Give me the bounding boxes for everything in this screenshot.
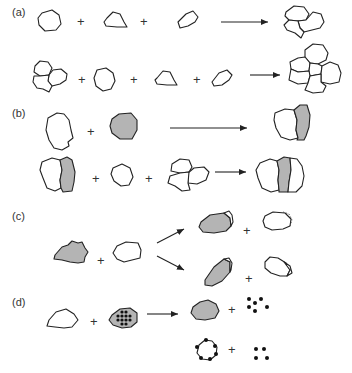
aggregate-b2-part <box>188 167 209 184</box>
free-dots <box>254 347 269 360</box>
particle-c-gray <box>54 241 88 263</box>
particle-a4 <box>94 68 115 91</box>
plus-sign: + <box>92 171 100 186</box>
plus-sign: + <box>90 314 98 329</box>
plus-sign: + <box>228 342 236 357</box>
pair-b2-gray <box>60 157 75 192</box>
plus-sign: + <box>77 14 85 29</box>
plus-sign: + <box>78 72 86 87</box>
particle-d-white <box>47 309 78 328</box>
plus-sign: + <box>193 72 201 87</box>
aggregate-b2-part <box>171 159 192 173</box>
plus-sign: + <box>130 72 138 87</box>
arrow-up <box>157 229 184 243</box>
plus-sign: + <box>97 253 105 268</box>
particle-a3 <box>178 11 198 28</box>
triple-b-white-left <box>256 159 279 192</box>
particle-b-gray <box>110 113 137 139</box>
arrow-down <box>157 256 184 270</box>
particle-c-white <box>113 242 141 262</box>
panel-a: + + + + + <box>33 6 341 93</box>
particle-a6 <box>212 70 232 86</box>
pair-b2-white <box>40 158 62 191</box>
plus-sign: + <box>145 171 153 186</box>
panel-b: + + + <box>40 105 310 192</box>
aggregate-b2-part <box>168 172 190 191</box>
panel-c: + + + <box>54 211 292 286</box>
particle-b2-round <box>111 164 133 186</box>
particle-a1 <box>38 10 61 31</box>
outcome-bottom-gray <box>205 259 230 286</box>
outcome-bottom-white <box>265 257 290 276</box>
released-dots <box>247 297 269 313</box>
aggregate-a1-part <box>285 6 309 21</box>
outcome-top-white <box>263 212 291 230</box>
pair-b-white <box>274 109 298 140</box>
panel-d: + + + <box>47 297 269 361</box>
plus-sign: + <box>140 14 148 29</box>
plus-sign: + <box>243 223 251 238</box>
product-d-gray <box>191 300 219 320</box>
outcome-top-gray <box>199 213 231 233</box>
particle-a2 <box>104 12 127 27</box>
diagram-canvas: + + + + + + <box>0 0 352 373</box>
aggregate-a3-part <box>321 62 341 84</box>
particle-a5 <box>155 71 177 85</box>
plus-sign: + <box>228 302 236 317</box>
plus-sign: + <box>245 271 253 286</box>
triple-b-white-right <box>288 158 304 192</box>
particle-b-white <box>46 113 73 150</box>
plus-sign: + <box>87 124 95 139</box>
